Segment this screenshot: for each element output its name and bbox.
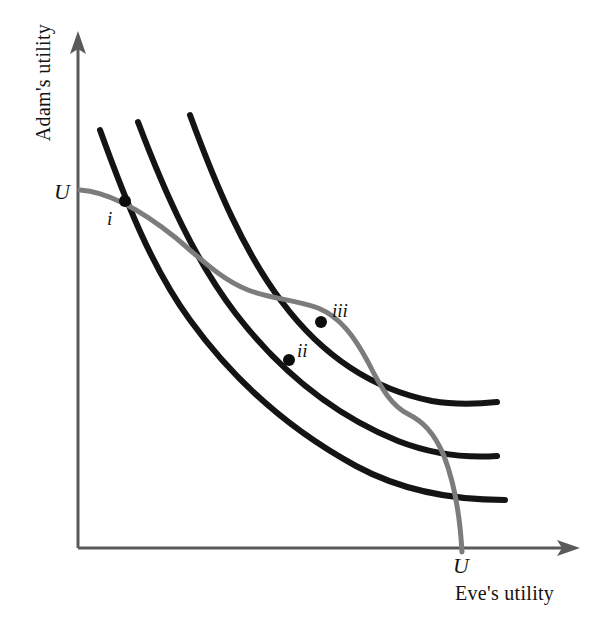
point-label-i: i	[107, 208, 112, 230]
indifference-curve-outer	[190, 115, 497, 404]
utility-frontier-figure: Adam's utility Eve's utility U U i ii ii…	[0, 0, 607, 625]
point-label-ii: ii	[297, 340, 308, 362]
point-marker-ii	[283, 354, 295, 366]
point-label-iii: iii	[332, 300, 348, 322]
y-axis	[70, 31, 86, 548]
point-marker-iii	[315, 316, 327, 328]
y-axis-label: Adam's utility	[32, 6, 55, 160]
x-axis-label: Eve's utility	[455, 582, 554, 605]
indifference-curve-middle	[138, 122, 497, 457]
x-axis-intercept-label: U	[453, 553, 469, 579]
y-axis-intercept-label: U	[54, 179, 70, 205]
x-axis	[78, 540, 580, 556]
utility-possibility-frontier	[80, 190, 462, 552]
figure-canvas	[0, 0, 607, 625]
point-marker-i	[119, 195, 131, 207]
